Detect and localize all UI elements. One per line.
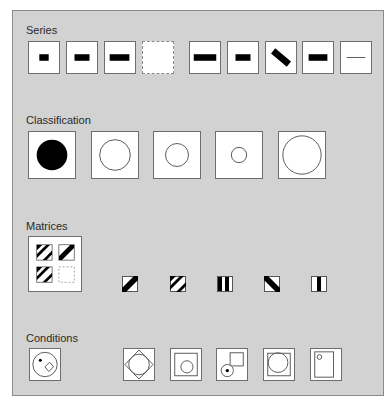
matrix-option-4[interactable] [264,276,280,292]
series-item-9[interactable] [340,41,372,74]
single-stripe-icon [59,245,74,260]
empty-dashed-icon [143,42,173,73]
conditions-title: Conditions [26,332,78,344]
matrix-option-3[interactable] [217,276,233,292]
series-title: Series [26,24,57,36]
filled-circle-icon [29,132,75,178]
series-item-4[interactable] [142,41,174,74]
double-vertical-stripe-icon [217,276,233,292]
conditions-item-4[interactable] [216,348,248,381]
reverse-diagonal-stripe-icon [264,276,280,292]
rotated-bar-icon [266,42,296,73]
conditions-item-6[interactable] [310,348,342,381]
small-circle-in-rectangle-icon [311,349,341,380]
double-diagonal-stripe-icon [170,276,186,292]
conditions-item-2[interactable] [123,348,155,381]
single-vertical-stripe-icon [311,276,327,292]
large-circle-in-square-icon [264,349,294,380]
conditions-item-5[interactable] [263,348,295,381]
series-item-6[interactable] [227,41,259,74]
small-circle-outline-icon [216,132,262,178]
small-bar-icon [29,42,59,73]
classification-title: Classification [26,114,91,126]
wide-bar-icon [105,42,135,73]
single-diagonal-stripe-icon [122,276,138,292]
medium-bar-icon [228,42,258,73]
matrix-option-2[interactable] [170,276,186,292]
large-circle-outline-icon [92,132,138,178]
series-item-1[interactable] [28,41,60,74]
series-item-8[interactable] [302,41,334,74]
circle-in-diamond-icon [124,349,154,380]
conditions-item-3[interactable] [170,348,202,381]
empty-dashed-icon [59,267,74,282]
double-stripe-icon [37,245,52,260]
wide-bar-icon [190,42,220,73]
thin-line-icon [341,42,371,73]
classification-item-5[interactable] [278,131,326,179]
double-stripe-icon [37,267,52,282]
classification-item-1[interactable] [28,131,76,179]
dotted-circle-and-square-icon [217,349,247,380]
medium-bar-icon [303,42,333,73]
medium-circle-outline-icon [154,132,200,178]
circle-in-square-icon [171,349,201,380]
classification-item-2[interactable] [91,131,139,179]
matrices-title: Matrices [26,220,68,232]
series-item-5[interactable] [189,41,221,74]
medium-bar-icon [67,42,97,73]
classification-item-3[interactable] [153,131,201,179]
series-item-7[interactable] [265,41,297,74]
xlarge-circle-outline-icon [279,132,325,178]
matrix-option-5[interactable] [311,276,327,292]
series-item-2[interactable] [66,41,98,74]
matrix-grid [28,236,82,292]
classification-item-4[interactable] [215,131,263,179]
circle-with-dot-and-diamond-icon [30,349,60,380]
matrix-option-1[interactable] [122,276,138,292]
conditions-item-1[interactable] [29,348,61,381]
series-item-3[interactable] [104,41,136,74]
